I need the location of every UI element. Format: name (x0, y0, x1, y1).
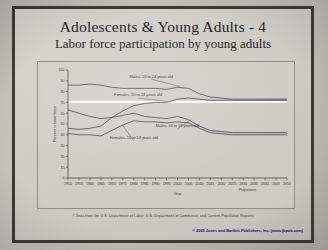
y-tick-label: 0 (63, 176, 65, 180)
slide-content: Adolescents & Young Adults - 4 Labor for… (15, 9, 311, 240)
chart-panel: 0102030405060708090100195019551960196519… (37, 61, 295, 209)
slide-frame: Adolescents & Young Adults - 4 Labor for… (12, 6, 314, 243)
series-leader-1 (151, 79, 179, 86)
x-tick-label: 1985 (141, 182, 149, 186)
photographed-slide-page: Adolescents & Young Adults - 4 Labor for… (0, 0, 328, 250)
series-label-4: Females, 16 to 19 years old (110, 135, 158, 140)
x-tick-label: 1970 (108, 182, 116, 186)
title-block: Adolescents & Young Adults - 4 Labor for… (15, 18, 311, 52)
x-tick-label: 1980 (130, 182, 138, 186)
series-label-1: Males, 20 to 24 years old (129, 74, 172, 79)
x-tick-label: 1995 (163, 182, 171, 186)
y-tick-label: 90 (61, 79, 65, 83)
series-line-1 (68, 84, 287, 99)
x-tick-label: 2050 (283, 182, 291, 186)
x-tick-label: 2040 (261, 182, 269, 186)
line-chart: 0102030405060708090100195019551960196519… (38, 62, 294, 208)
x-tick-label: 2045 (272, 182, 280, 186)
y-tick-label: 20 (61, 155, 65, 159)
page-subtitle: Labor force participation by young adult… (15, 36, 311, 52)
glare-band (68, 101, 287, 103)
series-label-3: Males, 16 to 19 years old (156, 123, 199, 128)
y-tick-label: 40 (61, 133, 65, 137)
x-tick-label: 2025 (228, 182, 236, 186)
copyright-notice: © 2005 Jones and Bartlett Publishers, In… (192, 228, 303, 233)
x-tick-label: 2035 (250, 182, 258, 186)
y-tick-label: 50 (61, 122, 65, 126)
series-line-3 (68, 110, 287, 133)
page-title: Adolescents & Young Adults - 4 (15, 18, 311, 36)
source-note: © Data from the U.S. Department of Labor… (15, 214, 311, 218)
x-tick-label: 1955 (75, 182, 83, 186)
x-tick-label: 2015 (206, 182, 214, 186)
x-tick-label: 2030 (239, 182, 247, 186)
x-tick-label: 2010 (196, 182, 204, 186)
x-tick-label: 1960 (86, 182, 94, 186)
series-label-2: Females, 20 to 24 years old (114, 92, 162, 97)
y-tick-label: 10 (61, 166, 65, 170)
y-axis-title: Percent in labor force (53, 106, 57, 142)
x-tick-label: 1975 (119, 182, 127, 186)
x-axis-title: Year (174, 192, 182, 196)
y-tick-label: 60 (61, 112, 65, 116)
x-tick-label: 1965 (97, 182, 105, 186)
y-tick-label: 80 (61, 90, 65, 94)
projections-annotation: Projections (239, 188, 257, 192)
x-tick-label: 2000 (174, 182, 182, 186)
y-tick-label: 30 (61, 144, 65, 148)
x-tick-label: 1990 (152, 182, 160, 186)
y-tick-label: 70 (61, 101, 65, 105)
chart-svg: 0102030405060708090100195019551960196519… (38, 62, 296, 210)
x-tick-label: 2020 (217, 182, 225, 186)
y-tick-label: 100 (59, 68, 65, 72)
x-tick-label: 2005 (185, 182, 193, 186)
x-tick-label: 1950 (64, 182, 72, 186)
